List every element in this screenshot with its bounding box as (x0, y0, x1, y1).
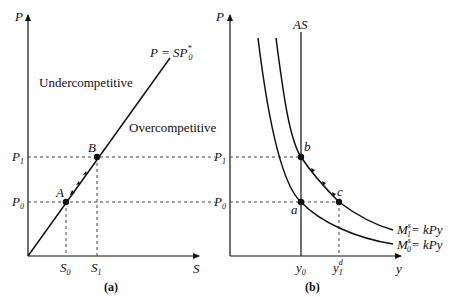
panel-b: P y AS b a c P1 P0 y0 y1d Ms1= kPy Ms0= … (213, 9, 443, 294)
panel-a-p1-label: P1 (11, 149, 24, 166)
panel-b-p0-label: P0 (213, 194, 226, 211)
panel-b-y1d-label: y1d (331, 258, 344, 277)
panel-b-point-b-label: b (304, 139, 311, 154)
panel-a-point-a-label: A (55, 185, 64, 200)
panel-b-path-arrows (311, 168, 336, 197)
panel-b-p1-label: P1 (213, 149, 226, 166)
panel-a-s0-label: S0 (60, 260, 71, 277)
panel-b-y-label: P (215, 9, 224, 24)
panel-b-point-c (336, 199, 342, 205)
panel-a-p0-label: P0 (11, 194, 24, 211)
panel-b-point-a (298, 199, 304, 205)
panel-b-point-a-label: a (291, 202, 298, 217)
panel-a-path-arrows (70, 171, 87, 195)
panel-a-line-label: P = SP*0 (149, 44, 192, 62)
panel-b-point-c-label: c (337, 184, 343, 199)
panel-b-point-b (298, 154, 304, 160)
panel-a-point-b-label: B (88, 140, 96, 155)
panel-b-caption: (b) (305, 280, 320, 294)
panel-b-y0-label: y0 (294, 260, 306, 277)
panel-b-x-label: y (394, 261, 402, 276)
panel-b-curve-m0 (258, 38, 393, 244)
panel-a-undercompetitive-label: Undercompetitive (39, 75, 133, 90)
panel-b-as-label: AS (292, 17, 308, 32)
panel-a-caption: (a) (104, 280, 118, 294)
panel-a-s1-label: S1 (91, 260, 102, 277)
panel-b-curve-m0-label: Ms0= kPy (396, 236, 443, 254)
panel-a-overcompetitive-label: Overcompetitive (129, 120, 217, 135)
panel-a-x-label: S (193, 261, 200, 276)
panel-a: P S P = SP*0 Undercompetitive Overcompet… (11, 9, 217, 294)
figure: P S P = SP*0 Undercompetitive Overcompet… (0, 0, 456, 297)
panel-a-y-label: P (14, 9, 23, 24)
